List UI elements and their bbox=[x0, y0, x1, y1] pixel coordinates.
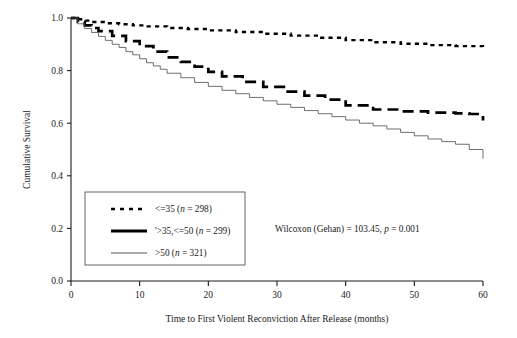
y-axis-tick-label: 1.0 bbox=[51, 13, 63, 23]
survival-curve-3 bbox=[71, 18, 483, 159]
legend-label-2: '>35,<=50 (n = 299) bbox=[155, 226, 230, 237]
y-axis-tick-label: 0.2 bbox=[51, 224, 63, 234]
y-axis-title: Cumulative Survival bbox=[22, 110, 32, 189]
x-axis-tick-label: 30 bbox=[272, 290, 282, 300]
x-axis-tick-label: 10 bbox=[135, 290, 145, 300]
survival-chart-figure: 0.00.20.40.60.81.00102030405060Time to F… bbox=[0, 0, 517, 338]
y-axis-tick-label: 0.0 bbox=[51, 276, 63, 286]
y-axis-tick-label: 0.4 bbox=[51, 171, 63, 181]
x-axis-tick-label: 0 bbox=[69, 290, 74, 300]
legend-label-3: >50 (n = 321) bbox=[155, 248, 207, 259]
y-axis-tick-label: 0.8 bbox=[51, 66, 63, 76]
x-axis-tick-label: 20 bbox=[204, 290, 214, 300]
x-axis-tick-label: 40 bbox=[341, 290, 351, 300]
survival-curve-1 bbox=[71, 18, 483, 47]
legend-label-1: <=35 (n = 298) bbox=[155, 204, 212, 215]
x-axis-title: Time to First Violent Reconviction After… bbox=[166, 314, 389, 325]
survival-chart-svg: 0.00.20.40.60.81.00102030405060Time to F… bbox=[0, 0, 517, 338]
x-axis-tick-label: 60 bbox=[478, 290, 488, 300]
statistic-annotation: Wilcoxon (Gehan) = 103.45, p = 0.001 bbox=[275, 224, 420, 235]
x-axis-tick-label: 50 bbox=[410, 290, 420, 300]
y-axis-tick-label: 0.6 bbox=[51, 119, 63, 129]
